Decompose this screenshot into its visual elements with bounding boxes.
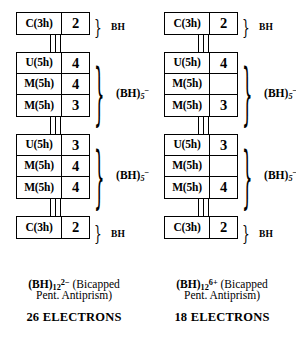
brace-text: (BH)5− — [116, 87, 149, 101]
connector-line — [55, 199, 56, 216]
connector-line — [203, 117, 204, 134]
brace-label-lower-pentagon: }(BH)5− — [94, 162, 149, 192]
brace-text: (BH)5− — [264, 87, 296, 101]
box-stack: C(3h)2U(5h)4M(5h)4M(5h)3U(5h)3M(5h)4M(5h… — [16, 12, 90, 239]
bond-connector — [16, 199, 90, 216]
connector-line — [50, 35, 51, 52]
orbital-label: C(3h) — [165, 217, 210, 238]
orbital-row: M(5h)3 — [165, 95, 237, 116]
orbital-count: 3 — [62, 95, 89, 116]
orbital-label: M(5h) — [165, 156, 210, 176]
group-cap-bottom: C(3h)2 — [164, 216, 238, 239]
curly-brace-icon: } — [242, 18, 250, 38]
bond-connector — [16, 35, 90, 52]
bond-connector — [164, 117, 238, 134]
connector-line — [198, 35, 199, 52]
curly-brace-icon: } — [242, 224, 250, 244]
orbital-label: U(5h) — [165, 53, 210, 73]
orbital-row: C(3h)2 — [165, 217, 237, 238]
orbital-count: 3 — [210, 135, 237, 155]
group-lower-pentagon: U(5h)3M(5h)M(5h)4 — [164, 134, 238, 199]
orbital-count: 4 — [62, 156, 89, 176]
bond-connector — [164, 35, 238, 52]
orbital-row: M(5h) — [165, 74, 237, 95]
brace-label-upper-pentagon: }(BH)5− — [242, 79, 296, 109]
orbital-row: C(3h)2 — [165, 13, 237, 34]
connector-line — [203, 199, 204, 216]
curly-brace-icon: } — [242, 143, 253, 211]
orbital-row: M(5h)4 — [17, 177, 89, 198]
bond-connector — [164, 199, 238, 216]
group-lower-pentagon: U(5h)3M(5h)4M(5h)4 — [16, 134, 90, 199]
connector-line — [198, 117, 199, 134]
orbital-row: C(3h)2 — [17, 217, 89, 238]
orbital-label: M(5h) — [165, 95, 210, 116]
orbital-count — [210, 74, 237, 94]
group-cap-bottom: C(3h)2 — [16, 216, 90, 239]
brace-text: BH — [259, 230, 273, 240]
orbital-row: M(5h) — [165, 156, 237, 177]
curly-brace-icon: } — [94, 18, 102, 38]
brace-text: BH — [111, 23, 125, 33]
orbital-label: U(5h) — [17, 135, 62, 155]
orbital-label: U(5h) — [165, 135, 210, 155]
orbital-label: C(3h) — [165, 13, 210, 34]
orbital-count: 3 — [62, 135, 89, 155]
connector-line — [55, 35, 56, 52]
orbital-row: M(5h)4 — [17, 156, 89, 177]
curly-brace-icon: } — [242, 60, 253, 128]
orbital-count: 3 — [210, 95, 237, 116]
brace-label-cap-top: }BH — [94, 17, 125, 39]
orbital-label: M(5h) — [17, 95, 62, 116]
cluster-column-right: }BH}(BH)5−}(BH)5−}BHC(3h)2U(5h)4M(5h)M(5… — [148, 0, 296, 342]
connector-line — [203, 35, 204, 52]
orbital-row: U(5h)4 — [165, 53, 237, 74]
orbital-count: 2 — [62, 217, 89, 238]
orbital-count: 2 — [210, 13, 237, 34]
brace-text: BH — [259, 23, 273, 33]
connector-line — [60, 35, 61, 52]
connector-line — [208, 199, 209, 216]
connector-line — [208, 117, 209, 134]
connector-line — [208, 35, 209, 52]
orbital-row: M(5h)4 — [17, 74, 89, 95]
box-stack: C(3h)2U(5h)4M(5h)M(5h)3U(5h)3M(5h)M(5h)4… — [164, 12, 238, 239]
brace-label-lower-pentagon: }(BH)5− — [242, 162, 296, 192]
orbital-label: U(5h) — [17, 53, 62, 73]
connector-line — [198, 199, 199, 216]
orbital-row: U(5h)4 — [17, 53, 89, 74]
group-upper-pentagon: U(5h)4M(5h)M(5h)3 — [164, 52, 238, 117]
orbital-label: C(3h) — [17, 217, 62, 238]
orbital-label: M(5h) — [17, 74, 62, 94]
bond-connector — [16, 117, 90, 134]
orbital-row: U(5h)3 — [165, 135, 237, 156]
group-upper-pentagon: U(5h)4M(5h)4M(5h)3 — [16, 52, 90, 117]
electron-count-diagram: }BH}(BH)5−}(BH)5−}BHC(3h)2U(5h)4M(5h)4M(… — [0, 0, 296, 342]
cluster-geometry-line2: Pent. Antiprism) — [148, 289, 296, 303]
orbital-label: M(5h) — [17, 156, 62, 176]
connector-line — [55, 117, 56, 134]
orbital-row: M(5h)4 — [165, 177, 237, 198]
brace-label-upper-pentagon: }(BH)5− — [94, 79, 149, 109]
curly-brace-icon: } — [94, 224, 102, 244]
brace-text: (BH)5− — [264, 169, 296, 183]
orbital-label: M(5h) — [17, 177, 62, 198]
orbital-label: M(5h) — [165, 74, 210, 94]
orbital-row: C(3h)2 — [17, 13, 89, 34]
brace-label-cap-bottom: }BH — [94, 223, 125, 245]
orbital-row: M(5h)3 — [17, 95, 89, 116]
electron-count: 26 ELECTRONS — [0, 310, 148, 325]
orbital-count: 4 — [62, 177, 89, 198]
connector-line — [50, 117, 51, 134]
orbital-count: 4 — [62, 74, 89, 94]
orbital-count: 4 — [210, 177, 237, 198]
curly-brace-icon: } — [94, 143, 105, 211]
group-cap-top: C(3h)2 — [16, 12, 90, 35]
orbital-count: 2 — [210, 217, 237, 238]
orbital-row: U(5h)3 — [17, 135, 89, 156]
brace-label-cap-bottom: }BH — [242, 223, 273, 245]
cluster-column-left: }BH}(BH)5−}(BH)5−}BHC(3h)2U(5h)4M(5h)4M(… — [0, 0, 148, 342]
connector-line — [60, 117, 61, 134]
connector-line — [50, 199, 51, 216]
orbital-count — [210, 156, 237, 176]
